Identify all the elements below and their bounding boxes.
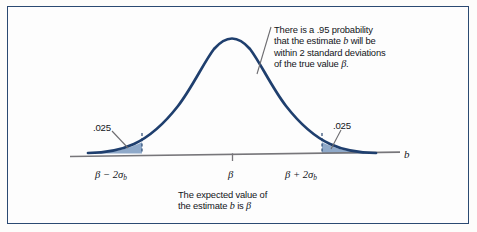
annotation-line-2-post: will be	[348, 35, 375, 46]
axis-tick-label-upper-bound: β + 2σb	[285, 169, 317, 182]
annotation-leader-line	[257, 27, 271, 74]
tick-label-left-main: β − 2σ	[95, 169, 123, 180]
tick-label-right-main: β + 2σ	[285, 169, 313, 180]
figure-container: There is a .95 probability that the esti…	[0, 0, 477, 232]
caption-line-2-end: β	[246, 200, 251, 211]
axis-tick-label-lower-bound: β − 2σb	[95, 169, 127, 182]
annotation-line-3: within 2 standard deviations	[274, 47, 386, 58]
caption-line-2-mid: is	[235, 200, 246, 211]
annotation-line-2-pre: that the estimate	[274, 35, 343, 46]
probability-annotation: There is a .95 probability that the esti…	[274, 24, 386, 69]
axis-tick-label-mean: β	[228, 169, 233, 180]
tick-label-left-subscript: b	[123, 173, 127, 182]
right-tail-probability-label: .025	[333, 120, 351, 131]
caption-line-2-pre: the estimate	[178, 200, 230, 211]
left-tail-leader-line	[112, 131, 128, 148]
annotation-line-1: There is a .95 probability	[274, 24, 373, 35]
tick-label-right-subscript: b	[313, 173, 317, 182]
annotation-line-4-post: .	[346, 58, 348, 69]
axis-variable-label: b	[404, 148, 410, 160]
left-tail-probability-label: .025	[93, 122, 111, 133]
caption-line-1: The expected value of	[178, 189, 267, 200]
annotation-line-4-pre: of the true value	[274, 58, 341, 69]
left-tail-shading	[100, 41, 232, 154]
expected-value-caption: The expected value of the estimate b is …	[178, 189, 267, 212]
